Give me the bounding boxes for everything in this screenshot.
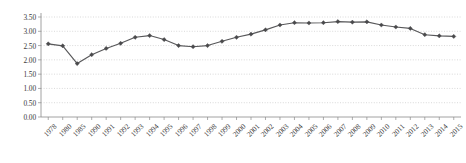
data-point-marker [148, 33, 152, 37]
data-point-marker [336, 19, 340, 23]
series-line [48, 22, 454, 64]
y-axis-tick-label: 3.00 [4, 27, 36, 36]
y-axis-tick-label: 1.50 [4, 70, 36, 79]
data-point-marker [452, 34, 456, 38]
line-chart: 0.000.501.001.502.002.503.003.5019781980… [0, 0, 466, 163]
data-point-marker [205, 43, 209, 47]
data-point-marker [119, 41, 123, 45]
y-axis-tick-label: 1.00 [4, 84, 36, 93]
data-point-marker [278, 23, 282, 27]
y-axis-tick-label: 3.50 [4, 13, 36, 22]
data-point-marker [176, 43, 180, 47]
data-point-marker [307, 21, 311, 25]
data-point-marker [234, 35, 238, 39]
data-point-marker [350, 20, 354, 24]
y-axis-tick-label: 2.50 [4, 41, 36, 50]
data-point-marker [249, 32, 253, 36]
data-point-marker [220, 39, 224, 43]
data-point-marker [104, 46, 108, 50]
data-point-marker [408, 26, 412, 30]
data-point-marker [321, 21, 325, 25]
data-point-marker [394, 25, 398, 29]
data-point-marker [437, 34, 441, 38]
data-point-marker [379, 23, 383, 27]
data-point-marker [263, 28, 267, 32]
y-axis-tick-label: 0.00 [4, 113, 36, 122]
data-point-marker [133, 35, 137, 39]
data-point-marker [292, 21, 296, 25]
data-point-marker [162, 37, 166, 41]
y-axis-tick-label: 2.00 [4, 55, 36, 64]
data-point-marker [365, 20, 369, 24]
data-point-marker [423, 33, 427, 37]
y-axis-tick-label: 0.50 [4, 98, 36, 107]
